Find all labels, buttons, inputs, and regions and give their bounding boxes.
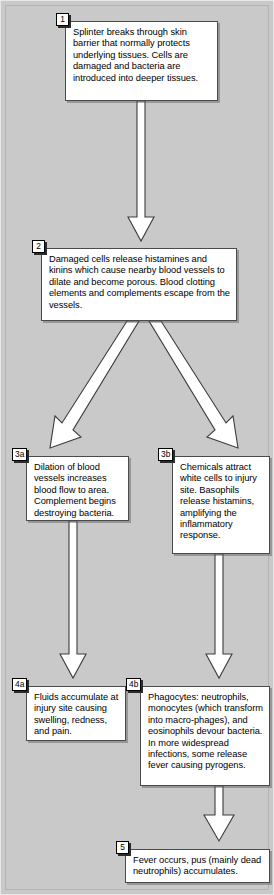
connector-3b-to-4b xyxy=(206,554,232,678)
step-box-4a-text: Fluids accumulate at injury site causing… xyxy=(27,687,125,742)
connector-2-to-3b xyxy=(149,321,238,448)
connector-4b-to-5 xyxy=(204,786,234,841)
step-box-4b[interactable]: Phagocytes: neutrophils, monocytes (whic… xyxy=(140,686,270,786)
step-tag-1: 1 xyxy=(56,13,69,26)
step-tag-3a: 3a xyxy=(12,448,27,461)
connector-2-to-3a xyxy=(50,321,139,448)
step-box-5-text: Fever occurs, pus (mainly dead neutrophi… xyxy=(126,850,269,882)
step-box-2[interactable]: Damaged cells release histamines and kin… xyxy=(41,248,237,321)
step-box-3b[interactable]: Chemicals attract white cells to injury … xyxy=(172,456,270,554)
step-box-1[interactable]: Splinter breaks through skin barrier tha… xyxy=(65,21,218,101)
step-box-5[interactable]: Fever occurs, pus (mainly dead neutrophi… xyxy=(125,849,270,883)
step-box-4a[interactable]: Fluids accumulate at injury site causing… xyxy=(26,686,126,741)
connector-3a-to-4a xyxy=(60,521,86,678)
step-tag-5: 5 xyxy=(116,841,129,854)
step-box-4b-text: Phagocytes: neutrophils, monocytes (whic… xyxy=(141,687,269,776)
step-tag-4a: 4a xyxy=(12,678,27,691)
flowchart-canvas: Splinter breaks through skin barrier tha… xyxy=(0,0,274,895)
step-box-1-text: Splinter breaks through skin barrier tha… xyxy=(66,22,217,88)
step-box-2-text: Damaged cells release histamines and kin… xyxy=(42,249,236,315)
step-box-3a[interactable]: Dilation of blood vessels increases bloo… xyxy=(26,456,129,521)
step-box-3b-text: Chemicals attract white cells to injury … xyxy=(173,457,269,546)
step-box-3a-text: Dilation of blood vessels increases bloo… xyxy=(27,457,128,523)
step-tag-3b: 3b xyxy=(158,448,173,461)
step-tag-2: 2 xyxy=(32,240,45,253)
connector-1-to-2 xyxy=(128,101,154,241)
step-tag-4b: 4b xyxy=(126,678,141,691)
